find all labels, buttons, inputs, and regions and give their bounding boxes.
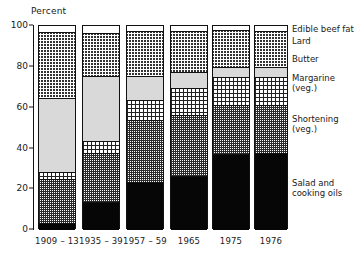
segment-margarine <box>255 78 287 106</box>
segment-butter <box>255 68 287 78</box>
legend-label-salad-cooking-oils: Salad and cooking oils <box>292 178 342 198</box>
segment-shortening <box>39 33 75 99</box>
segment-salad-cooking-oils <box>83 203 119 230</box>
bar-1976 <box>254 25 288 229</box>
legend-label-shortening: Shortening (veg.) <box>292 114 339 134</box>
y-tick-20: 20 <box>6 183 28 193</box>
segment-lard <box>83 154 119 203</box>
segment-salad-cooking-oils <box>127 183 163 230</box>
tickmark-60 <box>29 107 33 108</box>
bar-1909-13 <box>38 25 76 229</box>
segment-butter <box>39 99 75 173</box>
bar-1935-39 <box>82 25 120 229</box>
x-label-3: 1957 – 59 <box>123 236 167 246</box>
y-tick-60: 60 <box>6 102 28 112</box>
y-tick-80: 80 <box>6 61 28 71</box>
tickmark-40 <box>29 148 33 149</box>
segment-butter <box>213 68 249 78</box>
y-axis-line <box>33 25 34 230</box>
legend-text-shortening-line1: Shortening <box>292 114 339 124</box>
segment-margarine <box>83 142 119 154</box>
segment-salad-cooking-oils <box>171 177 207 230</box>
segment-edible-beef-fat <box>83 26 119 34</box>
x-label-5: 1975 <box>220 236 242 246</box>
bar-1965 <box>170 25 208 229</box>
tickmark-20 <box>29 188 33 189</box>
segment-salad-cooking-oils <box>213 155 249 230</box>
legend-text-lard: Lard <box>292 36 311 46</box>
segment-salad-cooking-oils <box>255 154 287 230</box>
segment-shortening <box>171 32 207 73</box>
legend-text-beef-fat: Edible beef fat <box>292 24 354 34</box>
segment-butter <box>127 77 163 101</box>
legend-text-margarine-line1: Margarine <box>292 73 335 83</box>
legend-text-oils-line2: cooking oils <box>292 188 342 198</box>
bar-1975 <box>212 25 250 229</box>
segment-lard <box>127 121 163 183</box>
tickmark-100 <box>29 25 33 26</box>
segment-butter <box>171 73 207 89</box>
legend-text-shortening-line2: (veg.) <box>292 124 339 134</box>
segment-margarine <box>127 101 163 121</box>
segment-butter <box>83 77 119 142</box>
segment-margarine <box>171 89 207 116</box>
y-tick-100: 100 <box>6 20 28 30</box>
legend-text-butter: Butter <box>292 54 319 64</box>
y-axis-ticks: 100 80 60 40 20 0 <box>6 0 28 258</box>
segment-salad-cooking-oils <box>39 224 75 230</box>
segment-lard <box>171 116 207 177</box>
x-label-1: 1909 – 13 <box>35 236 79 246</box>
x-label-4: 1965 <box>178 236 200 246</box>
x-label-6: 1976 <box>260 236 282 246</box>
segment-lard <box>255 106 287 154</box>
segment-edible-beef-fat <box>39 26 75 33</box>
tickmark-0 <box>29 229 33 230</box>
legend-text-margarine-line2: (veg.) <box>292 83 335 93</box>
segment-shortening <box>255 32 287 68</box>
segment-lard <box>39 180 75 224</box>
segment-lard <box>213 106 249 155</box>
legend-text-oils-line1: Salad and <box>292 178 342 188</box>
segment-shortening <box>213 31 249 68</box>
segment-shortening <box>127 32 163 77</box>
bar-1957-59 <box>126 25 164 229</box>
y-tick-0: 0 <box>6 224 28 234</box>
segment-shortening <box>83 34 119 77</box>
y-tick-40: 40 <box>6 143 28 153</box>
tickmark-80 <box>29 66 33 67</box>
y-axis-title: Percent <box>31 6 66 16</box>
legend-label-lard: Lard <box>292 36 311 46</box>
legend-label-margarine: Margarine (veg.) <box>292 73 335 93</box>
segment-margarine <box>213 78 249 106</box>
segment-margarine <box>39 173 75 180</box>
legend-label-edible-beef-fat: Edible beef fat <box>292 24 354 34</box>
legend-label-butter: Butter <box>292 54 319 64</box>
x-label-2: 1935 – 39 <box>79 236 123 246</box>
